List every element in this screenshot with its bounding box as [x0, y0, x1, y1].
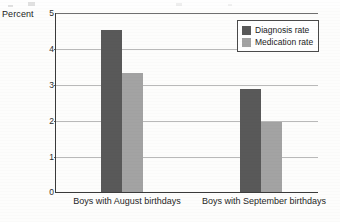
legend-item-diagnosis: Diagnosis rate [242, 24, 313, 36]
y-axis-tick-labels: 5 4 3 2 1 0 [38, 13, 54, 192]
bar-medication-september [261, 122, 282, 192]
y-tick-label-1: 1 [40, 153, 54, 162]
legend-label-diagnosis: Diagnosis rate [255, 26, 309, 35]
bar-chart: Percent 5 4 3 2 1 0 Boys with August bir… [0, 0, 340, 222]
bar-diagnosis-september [240, 89, 261, 192]
y-tick-label-4: 4 [40, 45, 54, 54]
scan-speck [28, 2, 35, 6]
chart-legend: Diagnosis rate Medication rate [237, 20, 319, 52]
y-tick-label-2: 2 [40, 117, 54, 126]
gridline-5 [56, 13, 318, 14]
diagnosis-swatch-icon [242, 26, 251, 35]
bar-medication-august [122, 73, 143, 192]
category-label-september: Boys with September birthdays [188, 196, 340, 206]
bar-diagnosis-august [101, 30, 122, 192]
y-axis-title: Percent [2, 9, 34, 19]
y-tick-label-5: 5 [40, 9, 54, 18]
scan-speck [176, 3, 182, 6]
legend-item-medication: Medication rate [242, 36, 313, 48]
medication-swatch-icon [242, 38, 251, 47]
y-tick-label-3: 3 [40, 81, 54, 90]
scan-speck [8, 5, 13, 7]
scan-speck [228, 4, 232, 6]
y-axis-line [55, 13, 56, 193]
category-label-august: Boys with August birthdays [52, 196, 202, 206]
gridline-3 [56, 85, 318, 86]
x-axis-line [55, 192, 318, 193]
legend-label-medication: Medication rate [255, 38, 313, 47]
